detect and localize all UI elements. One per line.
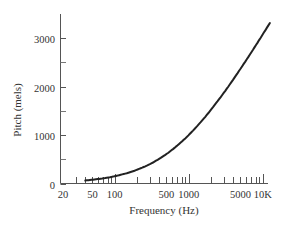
x-tick-label: 50 bbox=[87, 189, 98, 200]
x-ticks: 20501005001000500010K bbox=[58, 174, 272, 200]
y-axis-label: Pitch (mels) bbox=[11, 83, 24, 137]
x-tick-label: 1000 bbox=[178, 189, 199, 200]
mel-curve-line bbox=[85, 23, 270, 181]
x-tick-label: 500 bbox=[159, 189, 175, 200]
x-tick-label: 10K bbox=[254, 189, 273, 200]
x-tick-label: 20 bbox=[58, 189, 69, 200]
x-axis-label: Frequency (Hz) bbox=[129, 204, 199, 217]
y-tick-label: 3000 bbox=[34, 34, 55, 45]
y-tick-label: 0 bbox=[50, 180, 55, 191]
axes bbox=[61, 14, 269, 184]
y-ticks: 0100020003000 bbox=[34, 34, 66, 191]
x-tick-label: 5000 bbox=[230, 189, 251, 200]
y-tick-label: 1000 bbox=[34, 131, 55, 142]
mel-pitch-chart: 0100020003000 20501005001000500010K Freq… bbox=[0, 0, 289, 226]
y-tick-label: 2000 bbox=[34, 83, 55, 94]
x-tick-label: 100 bbox=[107, 189, 123, 200]
